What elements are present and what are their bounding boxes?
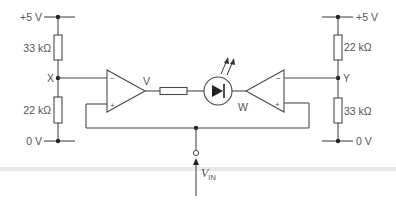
right-opamp-minus: −	[276, 74, 281, 83]
node-x-label: X	[47, 72, 54, 84]
right-22k-label: 22 kΩ	[344, 41, 372, 53]
left-22k-resistor	[54, 97, 62, 123]
left-opamp-plus: +	[110, 101, 115, 110]
input-terminal	[193, 150, 198, 155]
output-w-label: W	[238, 101, 248, 113]
series-resistor	[160, 88, 187, 95]
right-0v-label: 0 V	[356, 135, 372, 147]
led-branch: W	[145, 57, 248, 113]
right-voltage-divider: +5 V 22 kΩ Y 33 kΩ 0 V	[322, 11, 378, 147]
scan-artifact-band	[0, 167, 396, 171]
node-y-label: Y	[343, 72, 350, 84]
input-section: VIN	[86, 126, 309, 196]
right-5v-label: +5 V	[356, 11, 378, 23]
left-33k-label: 33 kΩ	[23, 42, 51, 54]
junction-dot	[56, 15, 60, 19]
vin-arrow-icon	[193, 158, 199, 165]
circuit-diagram: +5 V 33 kΩ X 22 kΩ 0 V +5 V 22 kΩ Y 33 k…	[0, 0, 396, 204]
right-opamp-plus: +	[275, 100, 280, 109]
right-22k-resistor	[334, 35, 342, 60]
junction-dot	[56, 139, 60, 143]
right-opamp: − +	[246, 70, 338, 128]
right-33k-label: 33 kΩ	[344, 105, 372, 117]
right-33k-resistor	[334, 98, 342, 123]
output-v-label: V	[143, 75, 150, 87]
junction-dot	[336, 15, 340, 19]
left-voltage-divider: +5 V 33 kΩ X 22 kΩ 0 V	[20, 11, 75, 147]
light-emission-arrows-icon	[221, 57, 235, 75]
left-0v-label: 0 V	[26, 135, 42, 147]
left-33k-resistor	[54, 35, 62, 60]
left-5v-label: +5 V	[20, 11, 42, 23]
left-22k-label: 22 kΩ	[23, 104, 51, 116]
left-opamp-minus: −	[110, 74, 115, 83]
junction-dot	[336, 139, 340, 143]
left-opamp: − + V	[58, 70, 150, 128]
